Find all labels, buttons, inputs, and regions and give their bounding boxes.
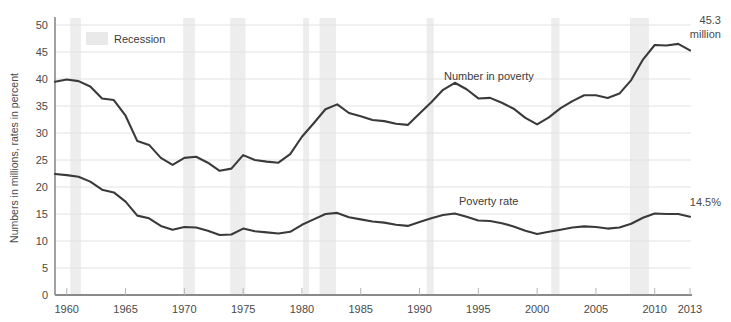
x-axis-tick-label: 1965 <box>106 304 146 315</box>
end-label-poverty-rate: 14.5% <box>601 196 721 210</box>
y-axis-tick-label: 30 <box>22 128 48 139</box>
y-axis-label-container: Numbers in millions, rates in percent <box>2 0 20 322</box>
x-axis-tick-label: 1975 <box>223 304 263 315</box>
recession-band <box>320 18 336 295</box>
recession-band <box>630 18 649 295</box>
y-axis-tick-label: 50 <box>22 20 48 31</box>
x-axis-tick-label: 2000 <box>517 304 557 315</box>
y-axis-tick-label: 40 <box>22 74 48 85</box>
end-label-line: million <box>601 28 721 42</box>
y-axis-tick-label: 5 <box>22 263 48 274</box>
recession-band <box>551 18 559 295</box>
x-axis-tick-label: 1970 <box>164 304 204 315</box>
y-axis-tick-label: 20 <box>22 182 48 193</box>
poverty-chart: Numbers in millions, rates in percent 05… <box>0 0 731 322</box>
x-axis-tick-label: 2005 <box>576 304 616 315</box>
y-axis-tick-label: 35 <box>22 101 48 112</box>
x-axis-tick-label: 2010 <box>635 304 675 315</box>
chart-plot-area <box>0 0 731 322</box>
end-label-number-in-poverty: 45.3million <box>601 14 721 42</box>
end-label-line: 45.3 <box>601 14 721 28</box>
y-axis-tick-label: 25 <box>22 155 48 166</box>
x-axis-tick-label: 1980 <box>282 304 322 315</box>
recession-legend-swatch <box>86 32 108 45</box>
x-axis-tick-label: 1990 <box>400 304 440 315</box>
x-axis-tick-label: 1995 <box>458 304 498 315</box>
x-axis-tick-label: 1985 <box>341 304 381 315</box>
x-axis-tick-label: 1960 <box>47 304 87 315</box>
series-line-number-in-poverty <box>55 44 690 171</box>
recession-band <box>303 18 309 295</box>
series-label-number-in-poverty: Number in poverty <box>444 70 534 82</box>
y-axis-tick-label: 45 <box>22 47 48 58</box>
recession-legend-label: Recession <box>114 33 165 45</box>
y-axis-tick-label: 10 <box>22 236 48 247</box>
recession-band <box>70 18 81 295</box>
x-axis-tick-label: 2013 <box>670 304 710 315</box>
series-line-poverty-rate <box>55 174 690 235</box>
y-axis-tick-label: 15 <box>22 209 48 220</box>
y-axis-tick-label: 0 <box>22 290 48 301</box>
series-label-poverty-rate: Poverty rate <box>459 195 518 207</box>
recession-band <box>427 18 434 295</box>
y-axis-label: Numbers in millions, rates in percent <box>8 58 20 258</box>
